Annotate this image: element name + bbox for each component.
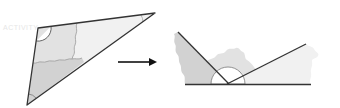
triangle-angle-sum-diagram: ACTIVITY [0, 0, 340, 108]
rearranged-angles [174, 32, 318, 85]
original-triangle [27, 13, 155, 105]
piece-top-left-corner [33, 23, 77, 63]
arrow-right-icon [118, 58, 157, 66]
diagram-canvas [0, 0, 340, 108]
